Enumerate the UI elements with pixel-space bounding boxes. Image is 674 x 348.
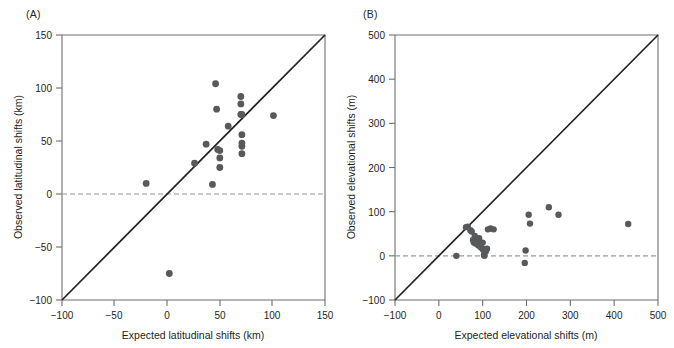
panel-a: (A) 150 100 50 0 −50 −100	[0, 0, 337, 348]
data-point	[270, 112, 277, 119]
data-point	[238, 143, 245, 150]
panel-b-ytick-500: 500	[368, 30, 385, 41]
data-point	[238, 131, 245, 138]
panel-a-ytick-neg50: −50	[35, 242, 52, 253]
data-point	[225, 123, 232, 130]
data-point	[143, 180, 150, 187]
data-point	[166, 270, 173, 277]
data-point	[237, 93, 244, 100]
panel-b-xtick-300: 300	[562, 310, 579, 321]
data-point	[555, 212, 561, 218]
panel-b-xtick-0: 0	[436, 310, 442, 321]
panel-b-ytick-400: 400	[368, 74, 385, 85]
panel-a-xtick-150: 150	[317, 310, 334, 321]
data-point	[490, 226, 496, 232]
data-point	[522, 247, 528, 253]
data-point	[212, 80, 219, 87]
panel-a-ytick-100: 100	[35, 83, 52, 94]
data-point	[209, 181, 216, 188]
panel-b-ytick-0: 0	[379, 251, 385, 262]
panel-b-xtick-500: 500	[650, 310, 667, 321]
data-point	[203, 141, 210, 148]
panel-a-xtick-0: 0	[164, 310, 170, 321]
data-point	[484, 246, 490, 252]
data-point	[191, 160, 198, 167]
panel-a-ytick-150: 150	[35, 30, 52, 41]
data-point	[625, 221, 631, 227]
panel-b: (B) 500 400 300 200 100 0 −100	[337, 0, 674, 348]
panel-b-y-axis-title: Observed elevational shifts (m)	[345, 95, 357, 240]
panel-a-xtick-50: 50	[214, 310, 226, 321]
panel-a-ytick-50: 50	[41, 136, 53, 147]
panel-a-plot: 150 100 50 0 −50 −100 −100 −50 0 50 100	[0, 0, 337, 348]
data-point	[216, 155, 223, 162]
data-point	[213, 106, 220, 113]
panel-a-x-ticks: −100 −50 0 50 100 150	[51, 300, 334, 321]
panel-a-points	[143, 80, 277, 277]
panel-a-ytick-neg100: −100	[29, 295, 52, 306]
panel-a-xtick-neg50: −50	[106, 310, 123, 321]
panel-b-x-axis-title: Expected elevational shifts (m)	[455, 329, 598, 341]
data-point	[216, 164, 223, 171]
figure-panel-group: (A) 150 100 50 0 −50 −100	[0, 0, 674, 348]
panel-b-xtick-400: 400	[606, 310, 623, 321]
data-point	[237, 101, 244, 108]
panel-a-ytick-0: 0	[46, 189, 52, 200]
data-point	[522, 260, 528, 266]
data-point	[453, 253, 459, 259]
panel-a-y-ticks: 150 100 50 0 −50 −100	[29, 30, 62, 306]
data-point	[216, 147, 223, 154]
panel-a-identity-line	[62, 35, 325, 300]
panel-b-ytick-200: 200	[368, 163, 385, 174]
data-point	[238, 111, 245, 118]
data-point	[546, 204, 552, 210]
panel-b-plot: 500 400 300 200 100 0 −100 −100 0 100	[337, 0, 674, 348]
panel-b-xtick-neg100: −100	[384, 310, 407, 321]
panel-b-xtick-100: 100	[474, 310, 491, 321]
data-point	[479, 239, 485, 245]
panel-b-ytick-300: 300	[368, 118, 385, 129]
panel-b-y-ticks: 500 400 300 200 100 0 −100	[362, 30, 395, 306]
data-point	[525, 212, 531, 218]
data-point	[527, 220, 533, 226]
data-point	[238, 150, 245, 157]
panel-a-y-axis-title: Observed latitudinal shifts (km)	[12, 95, 24, 239]
panel-b-x-ticks: −100 0 100 200 300 400 500	[384, 300, 667, 321]
panel-a-xtick-neg100: −100	[51, 310, 74, 321]
panel-a-x-axis-title: Expected latitudinal shifts (km)	[122, 329, 264, 341]
panel-b-xtick-200: 200	[518, 310, 535, 321]
panel-b-ytick-neg100: −100	[362, 295, 385, 306]
panel-a-xtick-100: 100	[264, 310, 281, 321]
panel-b-ytick-100: 100	[368, 207, 385, 218]
